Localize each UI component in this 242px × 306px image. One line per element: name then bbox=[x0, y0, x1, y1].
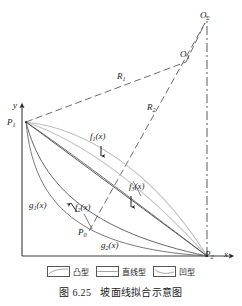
legend-label-convex: 凸型 bbox=[73, 266, 89, 277]
point-dot-P1 bbox=[25, 121, 27, 123]
curve-label-g1: g1(x) bbox=[29, 201, 47, 210]
radius-label-R1: R1 bbox=[117, 72, 126, 81]
caption-number: 图 6.25 bbox=[59, 287, 91, 298]
convex-curve-swatch-icon bbox=[47, 266, 70, 277]
concave-curve-swatch-icon bbox=[153, 266, 176, 277]
point-label-P2: P2 bbox=[205, 250, 214, 259]
figure-container: y x P1 P0 P2 O1 O2 R1 R2 f1(x) f2(x) f3(… bbox=[0, 0, 242, 306]
x-axis-label: x bbox=[224, 250, 228, 259]
legend-label-concave: 凹型 bbox=[179, 266, 195, 277]
radius-label-R2: R2 bbox=[147, 103, 156, 112]
figure-caption: 图 6.25坡面线拟合示意图 bbox=[0, 284, 242, 299]
legend-label-straight: 直线型 bbox=[122, 266, 146, 277]
y-axis-label: y bbox=[13, 101, 17, 110]
curve-label-f3: f3(x) bbox=[129, 182, 145, 191]
point-label-O1: O1 bbox=[180, 50, 190, 59]
caption-text: 坡面线拟合示意图 bbox=[100, 287, 182, 298]
legend: 凸型 直线型 凹型 bbox=[0, 261, 242, 281]
legend-item-concave: 凹型 bbox=[153, 266, 195, 277]
point-label-O2: O2 bbox=[200, 11, 210, 20]
legend-item-convex: 凸型 bbox=[47, 266, 89, 277]
legend-item-straight: 直线型 bbox=[96, 266, 146, 277]
curve-label-f1: f1(x) bbox=[90, 132, 106, 141]
curve-label-g2: g2(x) bbox=[101, 241, 119, 250]
point-label-P0: P0 bbox=[78, 228, 87, 237]
curve-label-f2: f2(x) bbox=[75, 203, 91, 212]
point-label-P1: P1 bbox=[7, 118, 16, 127]
straight-line-swatch-icon bbox=[96, 266, 119, 277]
radius-line-R1 bbox=[26, 62, 186, 122]
